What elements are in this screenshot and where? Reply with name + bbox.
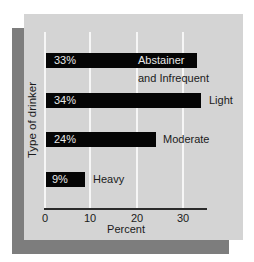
- x-axis-line: [44, 208, 207, 210]
- x-tick-label: 0: [42, 212, 48, 224]
- bar-value-label: 33%: [54, 53, 76, 68]
- y-axis-label: Type of drinker: [26, 82, 38, 158]
- bar-value-label: 9%: [52, 172, 68, 187]
- category-label: and Infrequent: [138, 71, 209, 86]
- category-label: Heavy: [93, 172, 124, 187]
- bar-value-label: 24%: [54, 132, 76, 147]
- x-tick-label: 30: [177, 212, 189, 224]
- x-tick-label: 10: [84, 212, 96, 224]
- category-label: Moderate: [163, 132, 209, 147]
- x-axis-label: Percent: [107, 223, 145, 235]
- chart-panel: [24, 14, 243, 240]
- category-label: Light: [209, 93, 233, 108]
- category-label: Abstainer: [138, 53, 184, 68]
- bar-value-label: 34%: [54, 93, 76, 108]
